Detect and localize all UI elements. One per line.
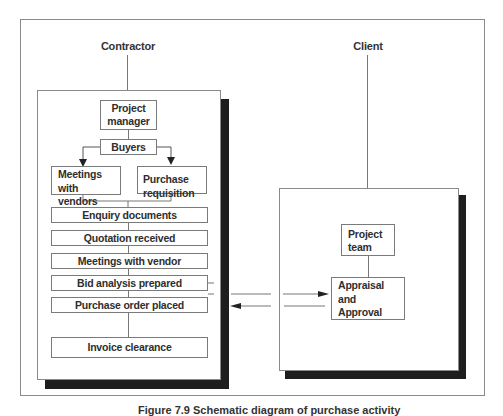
figure-caption: Figure 7.9 Schematic diagram of purchase… <box>138 404 400 416</box>
